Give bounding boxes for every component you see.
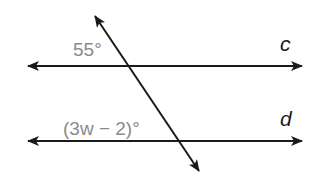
line-label-c: c — [280, 32, 291, 55]
line-label-d: d — [280, 107, 293, 130]
angle-label-3w-minus-2: (3w − 2)° — [63, 118, 140, 139]
diagram-canvas: 55° c (3w − 2)° d — [0, 0, 321, 183]
transversal-line — [95, 16, 199, 171]
angle-label-55: 55° — [73, 39, 102, 60]
